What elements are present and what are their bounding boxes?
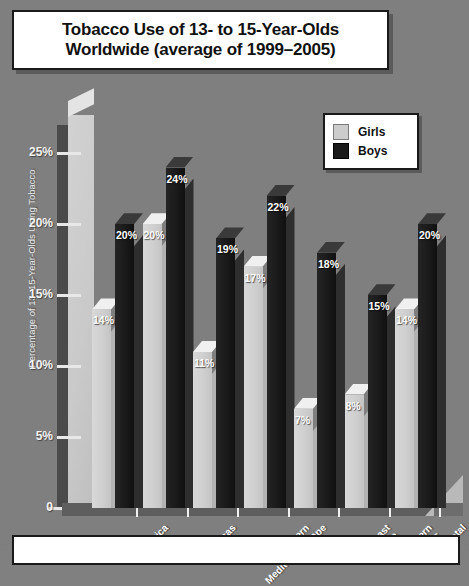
bar-face bbox=[143, 224, 162, 508]
legend-label-girls: Girls bbox=[358, 125, 385, 139]
bar-boys-eastern-mediterranean[interactable] bbox=[216, 238, 235, 508]
bar-value-label: 24% bbox=[167, 173, 188, 185]
y-axis-title: Percentage of 13–15-Year-Olds Using Toba… bbox=[26, 154, 37, 384]
bar-top-3d bbox=[317, 242, 345, 253]
bar-value-label: 20% bbox=[419, 229, 440, 241]
bar-value-label: 14% bbox=[93, 314, 114, 326]
y-tick-label-text: 15% bbox=[9, 287, 53, 301]
legend-swatch-girls-icon bbox=[333, 124, 349, 140]
y-axis-rail bbox=[57, 125, 68, 508]
bar-value-label: 22% bbox=[268, 201, 289, 213]
caption-box bbox=[12, 535, 460, 565]
bar-value-label: 18% bbox=[318, 258, 339, 270]
bar-face bbox=[267, 196, 286, 508]
legend-swatch-boys-icon bbox=[333, 143, 349, 159]
y-tick-label: 20% bbox=[0, 216, 53, 230]
bar-face bbox=[368, 295, 387, 508]
bar-boys-americas[interactable] bbox=[166, 168, 185, 508]
bar-face bbox=[395, 309, 414, 508]
y-tick-mark bbox=[57, 294, 81, 297]
bar-value-label: 15% bbox=[369, 300, 390, 312]
y-tick-mark bbox=[57, 223, 81, 226]
bar-top-3d bbox=[216, 227, 244, 238]
bar-top-3d bbox=[267, 185, 295, 196]
bar-top-3d bbox=[368, 284, 396, 295]
bar-face bbox=[244, 267, 263, 508]
chart-plot-area: Percentage of 13–15-Year-Olds Using Toba… bbox=[0, 95, 469, 495]
bar-boys-southeast-asia[interactable] bbox=[317, 253, 336, 508]
y-tick-mark bbox=[57, 152, 81, 155]
bar-girls-africa[interactable] bbox=[92, 309, 111, 508]
bar-value-label: 7% bbox=[295, 414, 310, 426]
y-tick-mark bbox=[57, 436, 81, 439]
bar-value-label: 8% bbox=[346, 400, 361, 412]
bar-boys-europe[interactable] bbox=[267, 196, 286, 508]
bar-boys-western-pacific[interactable] bbox=[368, 295, 387, 508]
y-tick-label-text: 10% bbox=[9, 358, 53, 372]
legend-label-boys: Boys bbox=[358, 144, 387, 158]
bar-value-label: 11% bbox=[194, 357, 214, 369]
y-tick-mark bbox=[57, 365, 81, 368]
legend-item-boys[interactable]: Boys bbox=[333, 143, 409, 159]
bar-value-label: 19% bbox=[217, 243, 238, 255]
bar-girls-total[interactable] bbox=[395, 309, 414, 508]
y-tick-label-text: 5% bbox=[9, 429, 53, 443]
bar-face bbox=[166, 168, 185, 508]
bar-value-label: 20% bbox=[116, 229, 137, 241]
y-tick-label-text: 25% bbox=[9, 145, 53, 159]
legend-item-girls[interactable]: Girls bbox=[333, 124, 409, 140]
bar-face bbox=[216, 238, 235, 508]
y-tick-label: 0 bbox=[0, 500, 53, 514]
bar-value-label: 20% bbox=[144, 229, 165, 241]
chart-title-box: Tobacco Use of 13- to 15-Year-Olds World… bbox=[12, 10, 389, 70]
bar-face bbox=[92, 309, 111, 508]
bar-face bbox=[418, 224, 437, 508]
plot-back-wall bbox=[68, 115, 94, 508]
bar-girls-europe[interactable] bbox=[244, 267, 263, 508]
y-tick-label: 15% bbox=[0, 287, 53, 301]
plot-back-wall-top bbox=[68, 88, 94, 117]
bar-top-3d bbox=[166, 157, 194, 168]
bar-face bbox=[115, 224, 134, 508]
bar-top-3d bbox=[418, 213, 446, 224]
bar-girls-eastern-mediterranean[interactable] bbox=[193, 352, 212, 508]
bar-side-3d bbox=[437, 235, 446, 508]
page-title: Tobacco Use of 13- to 15-Year-Olds World… bbox=[62, 20, 339, 60]
bar-face bbox=[317, 253, 336, 508]
chart-legend: Girls Boys bbox=[323, 113, 419, 170]
bar-boys-africa[interactable] bbox=[115, 224, 134, 508]
y-tick-label-text: 20% bbox=[9, 216, 53, 230]
y-tick-label: 10% bbox=[0, 358, 53, 372]
y-tick-label: 5% bbox=[0, 429, 53, 443]
y-tick-label-text: 0 bbox=[9, 500, 53, 514]
bar-value-label: 14% bbox=[396, 314, 417, 326]
bar-value-label: 17% bbox=[245, 272, 266, 284]
bar-top-3d bbox=[115, 213, 143, 224]
bar-boys-total[interactable] bbox=[418, 224, 437, 508]
bar-face bbox=[193, 352, 212, 508]
bar-girls-americas[interactable] bbox=[143, 224, 162, 508]
y-tick-label: 25% bbox=[0, 145, 53, 159]
